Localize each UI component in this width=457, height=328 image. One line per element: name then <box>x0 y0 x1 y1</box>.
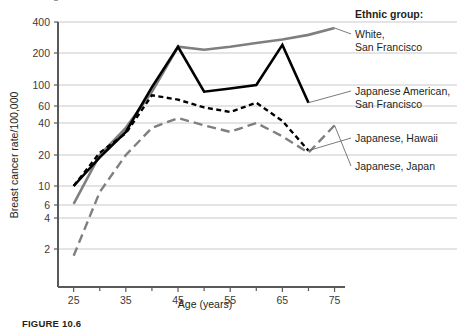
y-axis-ticks: 400200100604020106420 <box>32 0 58 255</box>
y-tick-label: 40 <box>38 117 50 129</box>
legend-title: Ethnic group: <box>355 8 423 20</box>
x-tick-label: 65 <box>277 294 289 306</box>
x-tick-label: 35 <box>120 294 132 306</box>
y-tick-label: 10 <box>38 180 50 192</box>
x-tick-label: 25 <box>68 294 80 306</box>
legend-item-japanese-hawaii: Japanese, Hawaii <box>355 132 438 144</box>
y-tick-label: 20 <box>38 149 50 161</box>
data-series-group <box>74 28 335 256</box>
breast-cancer-rate-line-chart: 400200100604020106420 253545556575 Breas… <box>0 0 457 328</box>
y-tick-label: 400 <box>32 16 50 28</box>
leader-line-2 <box>308 138 351 151</box>
y-tick-label: 6 <box>44 199 50 211</box>
legend-item-white-sf-line1: White, <box>355 28 385 40</box>
legend: Ethnic group: White, San Francisco Japan… <box>355 8 450 172</box>
legend-leader-lines <box>308 28 351 166</box>
figure-caption: FIGURE 10.6 <box>22 318 81 328</box>
y-tick-label: 4 <box>44 212 50 224</box>
leader-line-0 <box>335 28 351 34</box>
legend-item-japanese-american-sf-line2: San Francisco <box>355 98 422 110</box>
x-tick-label: 75 <box>329 294 341 306</box>
y-tick-label: 100 <box>32 79 50 91</box>
y-tick-label: 2 <box>44 243 50 255</box>
leader-line-3 <box>335 125 351 166</box>
legend-item-white-sf-line2: San Francisco <box>355 41 422 53</box>
y-axis-title: Breast cancer rate/100,000 <box>8 92 20 219</box>
legend-item-japanese-american-sf-line1: Japanese American, <box>355 85 450 97</box>
legend-item-japanese-japan: Japanese, Japan <box>355 160 435 172</box>
series-line-2 <box>74 95 309 186</box>
y-tick-label: 200 <box>32 47 50 59</box>
y-tick-label: 0 <box>44 0 50 2</box>
leader-line-1 <box>308 91 351 103</box>
series-line-0 <box>74 28 335 204</box>
y-tick-label: 60 <box>38 100 50 112</box>
x-axis-title: Age (years) <box>178 298 232 310</box>
series-line-3 <box>74 118 335 256</box>
figure-container: 400200100604020106420 253545556575 Breas… <box>0 0 457 328</box>
